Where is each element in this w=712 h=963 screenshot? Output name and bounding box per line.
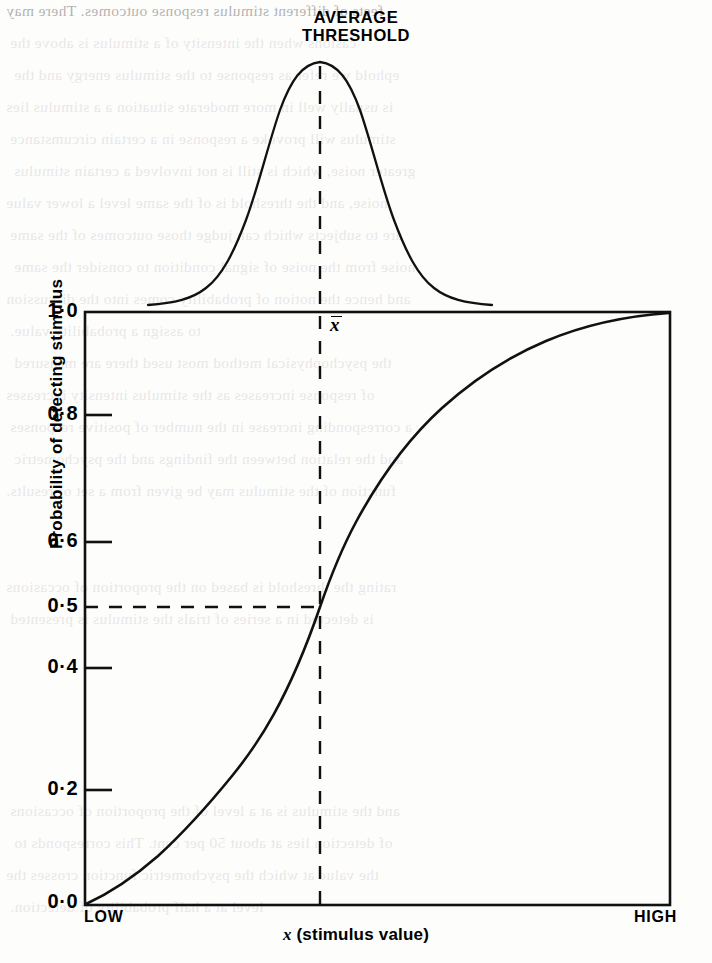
x-axis-title-symbol: x	[283, 925, 292, 944]
xbar-letter: x	[330, 314, 340, 335]
mean-threshold-xbar-label: x	[330, 316, 342, 336]
figure-title-line-2: THRESHOLD	[0, 26, 712, 44]
psychometric-function-plot	[0, 0, 712, 963]
figure-title: AVERAGE THRESHOLD	[0, 8, 712, 45]
x-axis-high-label: HIGH	[634, 908, 677, 926]
y-tick-label-0-2: 0·2	[22, 777, 78, 800]
y-tick-label-0-0: 0·0	[22, 890, 78, 913]
y-axis-ticks	[85, 415, 112, 790]
y-tick-label-0-5: 0·5	[22, 594, 78, 617]
figure-root: feets of different stimulus response out…	[0, 0, 712, 963]
y-axis-title: Probability of detecting stimulus	[47, 269, 67, 559]
x-axis-title: x (stimulus value)	[0, 925, 712, 945]
x-axis-low-label: LOW	[84, 908, 124, 926]
plot-frame	[85, 312, 670, 905]
x-axis-title-text: (stimulus value)	[292, 925, 430, 944]
figure-title-line-1: AVERAGE	[0, 8, 712, 26]
y-tick-label-0-4: 0·4	[22, 655, 78, 678]
psychometric-function-curve	[86, 313, 669, 904]
